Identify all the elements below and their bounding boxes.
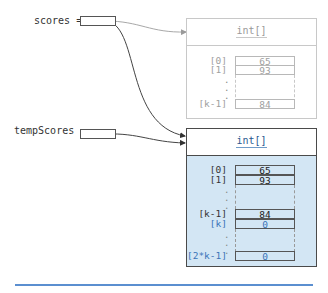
new-cell-2k-1: 0 [235, 251, 295, 261]
tempScores-variable-label: tempScores = [14, 125, 86, 137]
old-array-type-header: int[] [187, 19, 316, 46]
old-index-1: [1] [171, 65, 227, 75]
new-dashed-left-2 [235, 229, 236, 252]
new-index-k: [k] [171, 219, 227, 229]
new-cell-0: 65 [235, 165, 295, 175]
bottom-rule [15, 284, 313, 286]
old-array-type-label: int[] [236, 25, 266, 38]
new-dashed-right-1 [294, 185, 295, 209]
old-dashed-left [235, 75, 236, 102]
new-dashed-right-2 [294, 229, 295, 252]
old-cell-1: 93 [235, 65, 295, 75]
tempScores-pointer [106, 134, 185, 143]
new-index-2k-1: [2*k-1] [171, 251, 227, 261]
new-index-1: [1] [171, 175, 227, 185]
new-cell-k-1: 84 [235, 209, 295, 219]
old-cell-k-1: 84 [235, 99, 295, 109]
old-array-object: int[] [0] 65 [1] 93 ... [k-1] 84 [186, 18, 317, 119]
old-index-k-1: [k-1] [171, 99, 227, 109]
old-ellipsis: ... [224, 76, 228, 100]
new-dashed-left-1 [235, 185, 236, 209]
scores-variable-label: scores = [34, 15, 82, 27]
scores-reference-box [80, 16, 116, 26]
new-array-object: int[] [0] 65 [1] 93 ... [k-1] 84 [k] 0 .… [186, 128, 317, 267]
new-array-type-label: int[] [236, 135, 266, 148]
new-ellipsis-1: ... [224, 186, 228, 210]
scores-old-pointer [106, 21, 186, 32]
new-array-type-header: int[] [187, 129, 316, 156]
new-cell-k: 0 [235, 219, 295, 229]
scores-new-pointer [108, 21, 185, 136]
new-cell-1: 93 [235, 175, 295, 185]
old-dashed-right [294, 75, 295, 102]
tempScores-reference-box [80, 129, 116, 139]
